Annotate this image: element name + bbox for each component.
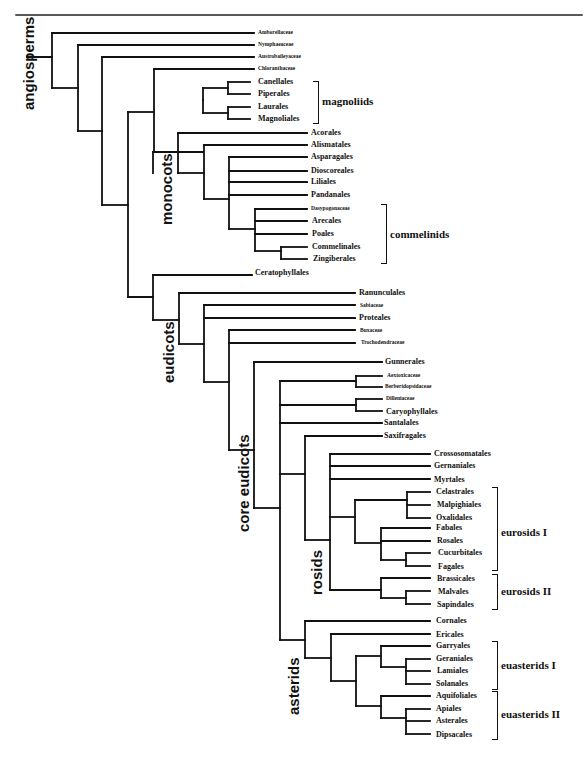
taxon-label: Malvales [438,588,469,596]
taxon-label: Cornales [436,617,467,625]
taxon-label: Dasypogonaceae [311,206,350,212]
clade-label-core-eudicots: core eudicots [236,434,251,532]
taxon-label: Apiales [436,705,461,713]
taxon-label: Pandanales [311,191,350,199]
taxon-label: Oxalidales [436,514,472,522]
taxon-label: Geraniales [436,655,473,663]
taxon-label: Piperales [258,90,290,98]
taxon-label: Commelinales [312,243,360,251]
taxon-label: Garryales [436,642,470,650]
group-label-eurosids-I: eurosids I [501,526,547,538]
taxon-label: Chloranthaceae [258,66,295,72]
group-bracket [492,487,498,571]
taxon-label: Berberidopsidaceae [385,384,431,390]
clade-label-eudicots: eudicots [161,321,176,383]
group-label-eurosids-II: eurosids II [501,585,551,597]
taxon-label: Malpighiales [437,501,481,509]
group-bracket [492,574,498,610]
taxon-label: Aquifoliales [436,692,477,700]
taxon-label: Amborellaceae [258,30,293,35]
group-bracket [313,81,319,124]
taxon-label: Celastrales [436,488,474,496]
taxon-label: Aextoxicaceae [387,373,420,379]
taxon-label: Ranunculales [359,289,405,297]
taxon-label: Sapindales [437,601,474,609]
taxon-label: Fabales [436,524,462,532]
taxon-label: Zingiberales [313,255,356,263]
taxon-label: Asterales [436,717,468,725]
taxon-label: Solanales [436,680,468,688]
group-label-euasterids-II: euasterids II [501,708,560,720]
taxon-label: Santalales [384,419,419,427]
taxon-label: Lamiales [437,667,468,675]
taxon-label: Nymphaeaceae [258,42,293,48]
group-bracket [492,641,498,690]
taxon-label: Proteales [359,314,390,322]
group-bracket [492,691,498,740]
clade-label-angiosperms: angiosperms [21,17,36,110]
taxon-label: Arecales [312,217,341,225]
taxon-label: Ericales [436,631,464,639]
taxon-label: Ceratophyllales [255,269,309,277]
taxon-label: Poales [312,230,334,238]
taxon-label: Magnoliales [258,115,299,123]
taxon-label: Dioscoreales [311,167,354,175]
taxon-label: Gunnerales [385,358,425,366]
taxon-label: Buxaceae [360,328,382,334]
clade-label-asterids: asterids [286,657,301,715]
taxon-label: Acorales [311,129,341,137]
taxon-label: Canellales [258,78,293,86]
taxon-label: Liliales [311,178,336,186]
group-label-euasterids-I: euasterids I [501,659,556,671]
taxon-label: Austrobaileyaceae [258,54,301,60]
taxon-label: Asparagales [311,153,353,161]
taxon-label: Saxifragales [384,432,426,440]
taxon-label: Alismatales [311,141,351,149]
taxon-label: Fagales [438,563,464,571]
taxon-label: Cucurbitales [438,549,482,557]
taxon-label: Caryophyllales [386,408,438,416]
taxon-label: Trochodendraceae [361,340,404,346]
clade-label-rosids: rosids [309,550,324,595]
clade-label-monocots: monocots [159,153,174,225]
taxon-label: Crossosomatales [434,450,491,458]
taxon-label: Laurales [258,103,288,111]
taxon-label: Brassicales [437,575,475,583]
taxon-label: Myrtales [434,476,465,484]
taxon-label: Dipsacales [436,731,472,739]
taxon-label: Rosales [437,537,463,545]
taxon-label: Sabiaceae [360,303,383,309]
group-label-magnoliids: magnoliids [322,95,373,107]
group-bracket [381,204,387,264]
taxon-label: Dilleniaceae [386,396,414,402]
taxon-label: Gernaniales [434,462,475,470]
group-label-commelinids: commelinids [390,228,449,240]
